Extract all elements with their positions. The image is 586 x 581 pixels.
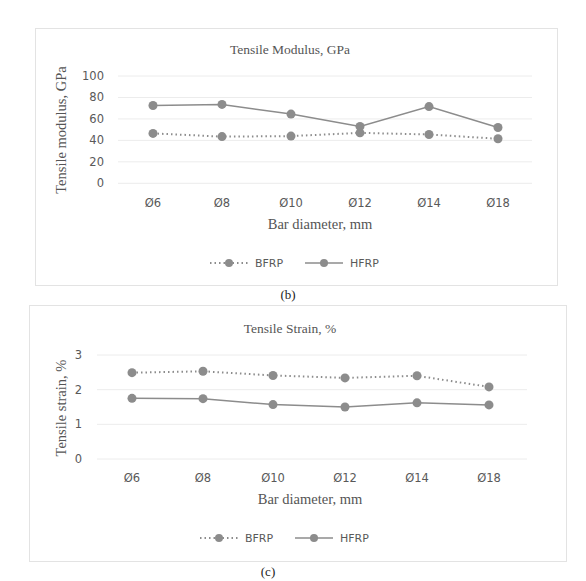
legend-marker-icon [215, 534, 223, 542]
legend-item-hfrp: HFRP [295, 532, 369, 545]
y-ticks: 0123 [75, 348, 82, 466]
data-point-bfrp [341, 373, 350, 382]
data-point-hfrp [269, 400, 278, 409]
y-tick-label: 1 [75, 417, 82, 431]
x-tick-label: Ø18 [477, 471, 501, 485]
strain-chart: Tensile Strain, % 0123 Ø6Ø8Ø10Ø12Ø14Ø18 … [0, 0, 586, 581]
series-lines [128, 367, 494, 412]
chart-title: Tensile Strain, % [244, 321, 336, 336]
x-tick-label: Ø6 [124, 471, 140, 485]
figure-caption-c: (c) [261, 564, 275, 580]
x-axis-title: Bar diameter, mm [258, 491, 363, 507]
data-point-bfrp [413, 371, 422, 380]
data-point-hfrp [485, 400, 494, 409]
y-axis-title: Tensile strain, % [53, 360, 69, 457]
gridlines [97, 355, 527, 459]
legend-item-bfrp: BFRP [200, 532, 274, 545]
data-point-bfrp [485, 382, 494, 391]
data-point-hfrp [413, 398, 422, 407]
legend-marker-icon [310, 534, 318, 542]
y-tick-label: 2 [75, 383, 82, 397]
series-line-hfrp [132, 398, 489, 407]
data-point-hfrp [128, 394, 137, 403]
y-tick-label: 0 [75, 452, 82, 466]
caption-text: (c) [261, 564, 275, 579]
x-ticks: Ø6Ø8Ø10Ø12Ø14Ø18 [124, 471, 501, 485]
x-tick-label: Ø12 [333, 471, 357, 485]
data-point-bfrp [269, 371, 278, 380]
x-tick-label: Ø8 [195, 471, 211, 485]
data-point-bfrp [128, 368, 137, 377]
legend: BFRPHFRP [200, 532, 369, 545]
legend-label: HFRP [340, 532, 369, 545]
data-point-hfrp [199, 394, 208, 403]
x-tick-label: Ø14 [405, 471, 429, 485]
series-line-bfrp [132, 371, 489, 387]
data-point-bfrp [199, 367, 208, 376]
legend-label: BFRP [245, 532, 274, 545]
x-tick-label: Ø10 [261, 471, 285, 485]
data-point-hfrp [341, 403, 350, 412]
y-tick-label: 3 [75, 348, 82, 362]
